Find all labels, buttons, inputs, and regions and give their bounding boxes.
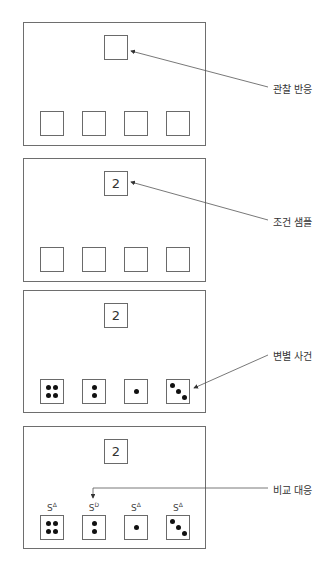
callout-comparison-match: 비교 대응 — [273, 482, 312, 497]
arrow-comparison-match — [93, 488, 268, 498]
arrow-observing-response — [131, 51, 268, 87]
arrow-discriminative-event — [194, 355, 268, 388]
arrow-conditional-sample — [131, 182, 268, 220]
callout-conditional-sample: 조건 샘플 — [273, 214, 312, 229]
callout-discriminative-event: 변별 사건 — [273, 348, 312, 363]
callout-observing-response: 관찰 반응 — [273, 81, 312, 96]
